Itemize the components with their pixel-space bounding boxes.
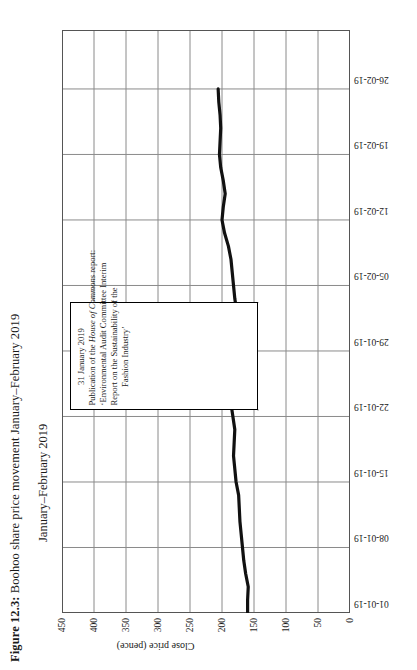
x-axis-tick-label: 22-01-19 (354, 402, 389, 412)
figure-title: Figure 12.3: Boohoo share price movement… (8, 62, 23, 662)
y-axis-tick-label: 50 (313, 618, 323, 648)
x-axis-tick-label: 05-02-19 (354, 271, 389, 281)
x-axis-tick-label: 01-01-19 (354, 599, 389, 609)
x-axis-tick-labels: 01-01-1908-01-1915-01-1922-01-1929-01-19… (352, 30, 412, 613)
annotation-line-3: Report on the Sustainability of the (109, 307, 120, 405)
y-axis-title: Close price (pence) (76, 641, 236, 652)
y-axis-tick-label: 150 (249, 618, 259, 648)
annotation-callout: 31 January 2019 Publication of the House… (70, 302, 258, 410)
annotation-line-4: Fashion Industry’ (120, 307, 131, 405)
x-axis-tick-label: 19-02-19 (354, 140, 389, 150)
annotation-date: 31 January 2019 (76, 307, 87, 405)
annotation-line1-head: Publication of the (87, 342, 97, 405)
y-axis-tick-label: 450 (57, 618, 67, 648)
x-axis-tick-label: 08-01-19 (354, 534, 389, 544)
x-axis-tick-label: 15-01-19 (354, 468, 389, 478)
figure-label: Figure 12.3: (8, 596, 22, 662)
annotation-line-1: Publication of the House of Commons repo… (87, 307, 98, 405)
annotation-line1-italic: House of Commons (87, 275, 97, 342)
y-axis-tick-label: 100 (281, 618, 291, 648)
annotation-line-2: ‘Environmental Audit Committee Interim (98, 307, 109, 405)
y-axis-tick-label: 0 (345, 618, 355, 648)
x-axis-tick-label: 12-02-19 (354, 206, 389, 216)
rotated-figure-canvas: Figure 12.3: Boohoo share price movement… (0, 0, 417, 670)
annotation-line1-tail: report: (87, 250, 97, 275)
x-axis-tick-label: 26-02-19 (354, 75, 389, 85)
figure-subtitle: January–February 2019 (36, 424, 51, 542)
figure-title-text: Boohoo share price movement January–Febr… (8, 314, 22, 593)
x-axis-tick-label: 29-01-19 (354, 337, 389, 347)
